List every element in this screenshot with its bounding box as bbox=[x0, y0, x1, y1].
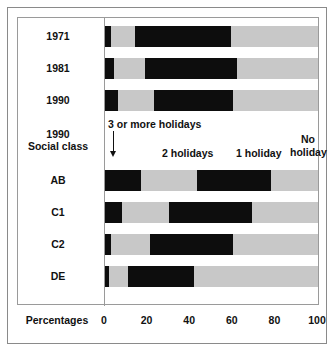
group-label-social-class: 1990Social class bbox=[18, 116, 98, 164]
axis-tick-40: 40 bbox=[183, 314, 195, 326]
group-label-line2: Social class bbox=[28, 140, 88, 152]
axis-tick-60: 60 bbox=[226, 314, 238, 326]
row-label-1971: 1971 bbox=[18, 20, 98, 52]
axis-tick-100: 100 bbox=[308, 314, 326, 326]
bar-segment bbox=[111, 234, 149, 255]
bar-segment bbox=[109, 266, 128, 287]
stacked-bar bbox=[105, 202, 318, 223]
bar-segment bbox=[141, 170, 196, 191]
bar-segment bbox=[114, 58, 146, 79]
group-label-line1: 1990 bbox=[46, 128, 69, 140]
annotation-two-holidays: 2 holidays bbox=[162, 147, 213, 159]
row-label-de: DE bbox=[18, 260, 98, 292]
bar-segment bbox=[237, 58, 318, 79]
bar-segment bbox=[128, 266, 194, 287]
row-label-1981: 1981 bbox=[18, 52, 98, 84]
stacked-bar bbox=[105, 234, 318, 255]
bar-segment bbox=[118, 90, 154, 111]
annotation-no-holiday-line1: No bbox=[290, 133, 326, 146]
bar-segment bbox=[197, 170, 272, 191]
stacked-bar bbox=[105, 58, 318, 79]
stacked-bar bbox=[105, 170, 318, 191]
axis-tick-20: 20 bbox=[141, 314, 153, 326]
bar-segment bbox=[271, 170, 318, 191]
bar-segment bbox=[150, 234, 233, 255]
stacked-bar bbox=[105, 266, 318, 287]
annotation-no-holiday-line2: holiday bbox=[290, 146, 326, 159]
bar-row: DE bbox=[18, 260, 320, 292]
bar-segment bbox=[122, 202, 169, 223]
bar-segment bbox=[105, 90, 118, 111]
bar-segment bbox=[105, 58, 114, 79]
bar-segment bbox=[105, 170, 141, 191]
chart-frame: 197119811990ABC1C2DE 1990Social class3 o… bbox=[7, 7, 327, 344]
bar-segment bbox=[111, 26, 134, 47]
annotation-no-holiday: Noholiday bbox=[290, 133, 326, 159]
annotation-arrow-icon bbox=[113, 131, 114, 155]
axis-caption: Percentages bbox=[17, 314, 97, 326]
bar-row: AB bbox=[18, 164, 320, 196]
bar-segment bbox=[135, 26, 231, 47]
bar-row: 1981 bbox=[18, 52, 320, 84]
annotation-one-holiday: 1 holiday bbox=[236, 147, 282, 159]
row-label-1990: 1990 bbox=[18, 84, 98, 116]
bar-segment bbox=[252, 202, 318, 223]
stacked-bar bbox=[105, 26, 318, 47]
row-label-c2: C2 bbox=[18, 228, 98, 260]
bar-segment bbox=[233, 234, 318, 255]
axis-tick-80: 80 bbox=[269, 314, 281, 326]
bar-segment bbox=[145, 58, 237, 79]
bar-row: 1990 bbox=[18, 84, 320, 116]
bar-segment bbox=[231, 26, 318, 47]
plot-area: 197119811990ABC1C2DE 1990Social class3 o… bbox=[17, 17, 319, 305]
axis-tick-0: 0 bbox=[101, 314, 107, 326]
annotation-three-or-more-holidays: 3 or more holidays bbox=[108, 118, 201, 130]
legend-annotation-band: 1990Social class3 or more holidays2 holi… bbox=[18, 116, 320, 164]
bar-segment bbox=[154, 90, 233, 111]
bar-row: C2 bbox=[18, 228, 320, 260]
bar-row: C1 bbox=[18, 196, 320, 228]
bar-segment bbox=[194, 266, 318, 287]
row-label-ab: AB bbox=[18, 164, 98, 196]
bar-segment bbox=[105, 202, 122, 223]
bar-row: 1971 bbox=[18, 20, 320, 52]
row-label-c1: C1 bbox=[18, 196, 98, 228]
stacked-bar bbox=[105, 90, 318, 111]
bar-segment bbox=[233, 90, 318, 111]
bar-segment bbox=[169, 202, 252, 223]
x-axis: Percentages 020406080100 bbox=[17, 311, 319, 333]
